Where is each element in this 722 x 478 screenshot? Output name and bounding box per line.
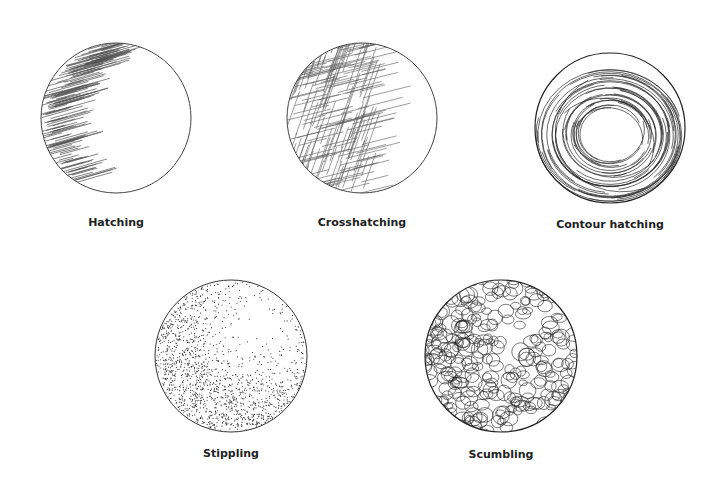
scumbling-sphere-illustration	[385, 240, 625, 478]
label-contour-hatching: Contour hatching	[556, 218, 664, 231]
contour-hatching-sphere-illustration	[494, 0, 722, 240]
label-stippling: Stippling	[203, 447, 259, 460]
sphere-hatching: Hatching	[0, 0, 240, 240]
sphere-crosshatching: Crosshatching	[246, 0, 486, 240]
crosshatching-sphere-illustration	[246, 0, 486, 240]
sphere-scumbling: Scumbling	[385, 240, 625, 478]
label-scumbling: Scumbling	[469, 448, 534, 461]
sphere-contour-hatching: Contour hatching	[494, 0, 722, 240]
sphere-stippling: Stippling	[115, 240, 355, 478]
label-hatching: Hatching	[88, 216, 144, 229]
stippling-sphere-illustration	[115, 240, 355, 478]
label-crosshatching: Crosshatching	[318, 216, 407, 229]
hatching-sphere-illustration	[0, 0, 240, 240]
